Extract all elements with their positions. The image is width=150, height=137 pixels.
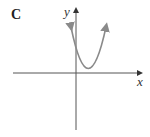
x-axis-label: x bbox=[136, 74, 143, 89]
y-axis-label: y bbox=[62, 4, 70, 19]
graph: y x bbox=[0, 0, 150, 137]
